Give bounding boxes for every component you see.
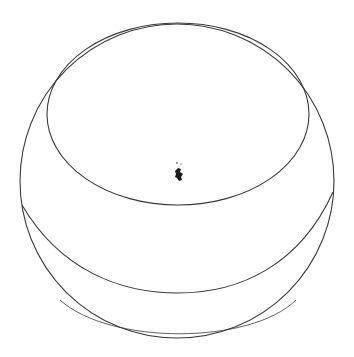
bottom-double-line [60,300,296,334]
center-mark [175,162,183,181]
outer-circle [20,24,334,338]
sphere-drawing [0,0,354,357]
band-arc [22,192,333,293]
